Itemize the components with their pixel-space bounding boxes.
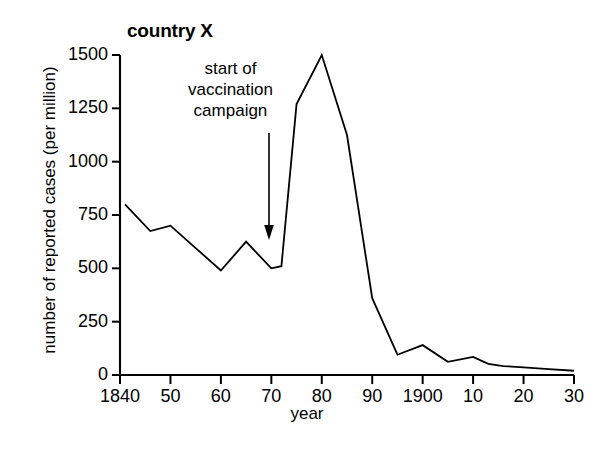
y-tick-label: 750	[48, 205, 108, 223]
x-tick-label: 90	[362, 387, 382, 405]
y-axis-ticks	[112, 55, 120, 375]
x-tick-label: 1840	[100, 387, 140, 405]
y-tick-label: 0	[48, 365, 108, 383]
x-tick-label: 1900	[403, 387, 443, 405]
y-tick-label: 500	[48, 258, 108, 276]
annotation-arrow	[264, 133, 274, 240]
x-tick-label: 70	[261, 387, 281, 405]
x-axis-ticks	[120, 375, 574, 384]
x-tick-label: 50	[160, 387, 180, 405]
data-series-line	[125, 55, 574, 371]
x-tick-label: 10	[463, 387, 483, 405]
y-tick-label: 1000	[48, 152, 108, 170]
x-tick-label: 60	[211, 387, 231, 405]
x-tick-label: 30	[564, 387, 584, 405]
x-tick-label: 20	[514, 387, 534, 405]
y-tick-label: 250	[48, 312, 108, 330]
chart-figure: country X number of reported cases (per …	[0, 0, 614, 463]
x-tick-label: 80	[312, 387, 332, 405]
y-tick-label: 1250	[48, 98, 108, 116]
y-tick-label: 1500	[48, 45, 108, 63]
